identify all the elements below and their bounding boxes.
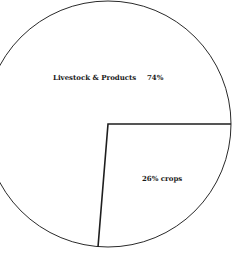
slice-label-crops: 26% crops bbox=[142, 174, 182, 183]
slice-value-livestock: 74% bbox=[147, 73, 163, 82]
slice-label-livestock: Livestock & Products bbox=[53, 73, 136, 82]
pie-chart-graphic bbox=[0, 0, 238, 254]
